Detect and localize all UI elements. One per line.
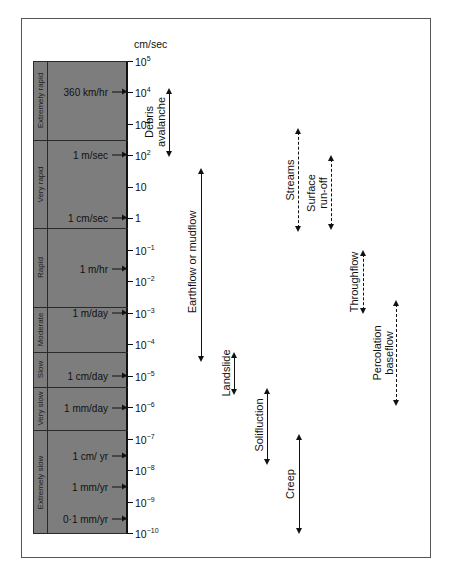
velocity-class-label: Rapid [33,228,48,307]
axis-tick [128,439,133,440]
process-label-line: Percolation [371,325,383,380]
reference-speed: 1 m/sec [73,150,126,161]
tick-base: 10 [135,402,147,414]
process-label: Solifluction [253,398,265,451]
arrow-shaft [363,254,364,310]
process-label: Landslide [220,349,232,396]
axis-tick-label: 10−10 [135,527,159,540]
process-label-line: Debris [143,97,155,147]
tick-base: 10 [135,56,147,68]
reference-speed: 1 mm/day [64,403,126,414]
axis-tick-label: 10 [135,181,147,193]
arrow-right-icon [112,519,126,520]
arrow-shaft [234,356,235,391]
reference-speed-label: 1 mm/yr [72,482,108,493]
arrow-up-icon [264,388,270,394]
axis-tick [128,533,133,534]
axis-tick-label: 10−9 [135,496,155,509]
velocity-class-label: Moderate [33,307,48,352]
process-label-line: avalanche [155,97,167,147]
arrow-right-icon [112,408,126,409]
process-label: Throughflow [348,252,360,313]
process-label-line: Creep [284,469,296,499]
axis-tick [128,187,133,188]
arrow-shaft [331,159,332,226]
arrow-right-icon [112,487,126,488]
axis-tick-label: 10−7 [135,433,155,446]
process-label: Percolationbaseflow [371,325,395,380]
tick-base: 10 [135,339,147,351]
velocity-class-text: Slow [36,361,45,378]
arrow-shaft [298,132,299,228]
tick-exponent: −6 [147,401,155,408]
velocity-class-label: Very rapid [33,140,48,228]
reference-speed-label: 1 m/sec [73,150,108,161]
arrow-down-icon [328,224,334,230]
axis-tick-label: 10−8 [135,464,155,477]
tick-exponent: −1 [147,244,155,251]
axis-tick [128,470,133,471]
reference-speed-label: 1 m/hr [80,264,108,275]
velocity-class-text: Very rapid [36,166,45,202]
axis-tick [128,155,133,156]
reference-speed-label: 0·1 mm/yr [63,514,108,525]
velocity-class-label: Very slow [33,387,48,430]
arrow-right-icon [112,155,126,156]
axis-tick [128,502,133,503]
process-label-line: Landslide [220,349,232,396]
tick-exponent: −4 [147,338,155,345]
process-label-line: Throughflow [348,252,360,313]
reference-speed-label: 1 m/day [72,308,108,319]
tick-base: 10 [135,528,147,540]
reference-speed: 1 cm/day [67,371,126,382]
reference-speed: 1 m/hr [80,264,126,275]
arrow-shaft [267,392,268,461]
tick-base: 1 [135,212,141,224]
reference-speed-label: 1 cm/day [67,371,108,382]
arrow-right-icon [112,269,126,270]
velocity-class-text: Extremely rapid [36,73,45,129]
axis-tick-label: 102 [135,149,151,162]
arrow-down-icon [166,151,172,157]
tick-exponent: −10 [147,527,159,534]
arrow-down-icon [264,459,270,465]
tick-exponent: −2 [147,275,155,282]
reference-speed-label: 1 cm/ yr [72,451,108,462]
process-label-line: Earthflow or mudflow [186,211,198,314]
arrow-up-icon [198,168,204,174]
tick-base: 10 [135,434,147,446]
tick-exponent: −8 [147,464,155,471]
axis-tick-label: 10−3 [135,307,155,320]
axis-tick-label: 105 [135,55,151,68]
tick-exponent: −5 [147,370,155,377]
process-label-line: Streams [284,160,296,201]
tick-base: 10 [135,497,147,509]
tick-exponent: −3 [147,307,155,314]
axis-tick [128,376,133,377]
process-label-line: Surface [305,174,317,212]
reference-speed-label: 1 mm/day [64,403,108,414]
tick-base: 10 [135,308,147,320]
arrow-down-icon [198,356,204,362]
axis-tick-label: 10−6 [135,401,155,414]
arrow-up-icon [360,250,366,256]
tick-exponent: 4 [147,86,151,93]
arrow-up-icon [393,300,399,306]
reference-speed: 1 cm/sec [68,213,126,224]
reference-speed: 1 m/day [72,308,126,319]
arrow-up-icon [328,155,334,161]
process-label: Earthflow or mudflow [186,211,198,314]
axis-unit-label: cm/sec [134,38,167,50]
axis-tick-label: 10−2 [135,275,155,288]
process-label-line: Solifluction [253,398,265,451]
axis-tick [128,344,133,345]
axis-tick [128,407,133,408]
velocity-class-text: Rapid [36,257,45,278]
arrow-right-icon [112,376,126,377]
arrow-shaft [299,438,300,530]
tick-base: 10 [135,181,147,193]
reference-speed: 0·1 mm/yr [63,514,126,525]
arrow-shaft [201,172,202,358]
reference-speed: 1 mm/yr [72,482,126,493]
tick-exponent: −7 [147,433,155,440]
